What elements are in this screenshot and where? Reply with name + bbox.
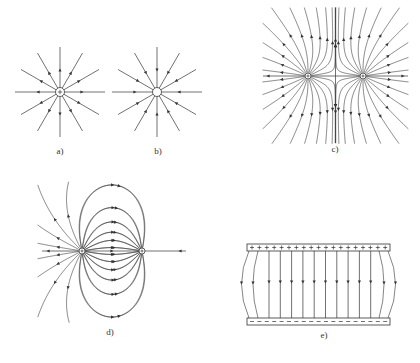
panel-a-positive-charge bbox=[15, 47, 105, 137]
panel-b-negative-charge bbox=[112, 47, 202, 137]
panel-e-parallel-plates bbox=[240, 244, 397, 325]
label-c: c) bbox=[332, 144, 339, 154]
panel-c-like-charges bbox=[262, 7, 408, 144]
label-e: e) bbox=[321, 330, 328, 340]
label-a: a) bbox=[57, 146, 64, 156]
label-d: d) bbox=[106, 327, 114, 337]
label-b: b) bbox=[154, 146, 162, 156]
electric-field-figure bbox=[0, 0, 420, 363]
panel-d-dipole bbox=[38, 182, 186, 323]
